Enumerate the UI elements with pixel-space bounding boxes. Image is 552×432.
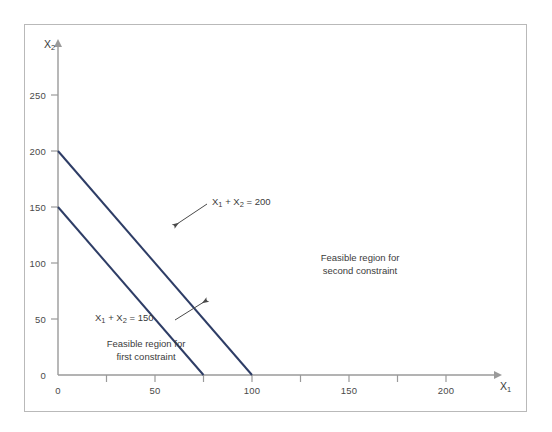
x-axis-ticks: [107, 375, 447, 382]
x-tick-label-150: 150: [341, 385, 357, 396]
x-tick-label-50: 50: [150, 385, 161, 396]
x-axis-title-subscript: 1: [507, 385, 511, 394]
y-axis-ticks: [51, 95, 58, 319]
constraint-150-label: X1 + X2 = 150: [95, 312, 154, 326]
leader-line-200: [174, 204, 207, 226]
figure-container: 250 200 150 100 50 0 0 50 100 150 200 X2…: [0, 0, 552, 432]
y-tick-label-0: 0: [24, 370, 46, 381]
y-tick-label-150: 150: [24, 202, 46, 213]
y-tick-label-250: 250: [24, 90, 46, 101]
x-axis-title: X1: [500, 380, 511, 392]
y-tick-label-50: 50: [24, 314, 46, 325]
y-axis-title: X2: [44, 38, 55, 50]
region-first-line2: first constraint: [116, 351, 175, 362]
region-second-line1: Feasible region for: [321, 252, 400, 263]
region-first-line1: Feasible region for: [107, 338, 186, 349]
plot-area: [0, 0, 552, 432]
x-tick-label-0: 0: [55, 385, 60, 396]
region-second-line2: second constraint: [323, 265, 397, 276]
x-tick-label-100: 100: [244, 385, 260, 396]
y-tick-label-100: 100: [24, 258, 46, 269]
region-label-first-constraint: Feasible region for first constraint: [107, 337, 186, 363]
y-tick-label-200: 200: [24, 146, 46, 157]
region-label-second-constraint: Feasible region for second constraint: [321, 251, 400, 277]
y-axis-title-subscript: 2: [51, 43, 55, 52]
x-tick-label-200: 200: [438, 385, 454, 396]
constraint-200-label: X1 + X2 = 200: [212, 196, 271, 210]
